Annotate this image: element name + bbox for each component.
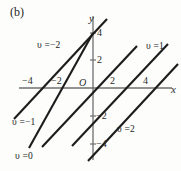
- panel-tag: (b): [10, 6, 24, 18]
- curve-label-v-2: υ =2: [117, 125, 135, 135]
- y-tick-label-neg4: −4: [96, 139, 107, 149]
- curve-label-v-0: υ =0: [15, 152, 33, 162]
- curve-label-v-1: υ =1: [146, 42, 164, 52]
- x-tick-label-neg4: −4: [22, 76, 33, 86]
- y-axis-label: y: [89, 13, 94, 24]
- x-axis-label: x: [171, 84, 176, 95]
- y-tick-label-pos2: 2: [97, 55, 102, 65]
- curve-label-v-neg1: υ =−1: [12, 118, 36, 128]
- figure-panel-b: (b) y x O −4 −2 2 4 4 2 −2 −4 υ =−2 υ =−…: [0, 0, 181, 171]
- curve-label-v-neg2: υ =−2: [37, 41, 61, 51]
- y-tick-label-neg2: −2: [96, 111, 107, 121]
- x-tick-label-neg2: −2: [51, 76, 62, 86]
- x-tick-label-pos2: 2: [110, 76, 115, 86]
- x-tick-label-pos4: 4: [143, 76, 148, 86]
- origin-label: O: [79, 78, 86, 88]
- y-tick-label-pos4: 4: [97, 28, 102, 38]
